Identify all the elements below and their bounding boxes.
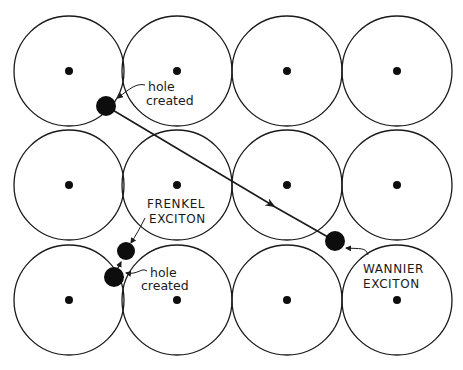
- wannier-path-line: [268, 203, 335, 241]
- nucleus-dot: [65, 67, 73, 75]
- nucleus-dot: [393, 181, 401, 189]
- nucleus-dot: [393, 296, 401, 304]
- frenkel-leader: [131, 218, 145, 243]
- frenkel-transition-arrow: [118, 262, 121, 268]
- nucleus-dot: [65, 296, 73, 304]
- nucleus-dot: [173, 181, 181, 189]
- wannier-exciton-label: WANNIEREXCITON: [363, 262, 424, 291]
- nucleus-dot: [283, 181, 291, 189]
- frenkel-exciton-label: FRENKELEXCITON: [147, 197, 206, 226]
- crystal-lattice: [14, 16, 452, 355]
- wannier-leader: [346, 248, 368, 255]
- nucleus-dot: [173, 296, 181, 304]
- frenkel-hole-dot: [104, 267, 124, 287]
- nucleus-dot: [65, 181, 73, 189]
- hole-created-label-top: holecreated: [146, 79, 194, 108]
- frenkel-electron-dot: [117, 242, 135, 260]
- nucleus-dot: [173, 67, 181, 75]
- nucleus-dot: [393, 67, 401, 75]
- wannier-hole-dot: [96, 96, 116, 116]
- exciton-diagram: holecreated FRENKELEXCITON holecreated W…: [0, 0, 463, 370]
- hole-created-label-bottom: holecreated: [141, 265, 189, 293]
- nucleus-dot: [283, 67, 291, 75]
- nucleus-dot: [283, 296, 291, 304]
- wannier-electron-dot: [325, 231, 345, 251]
